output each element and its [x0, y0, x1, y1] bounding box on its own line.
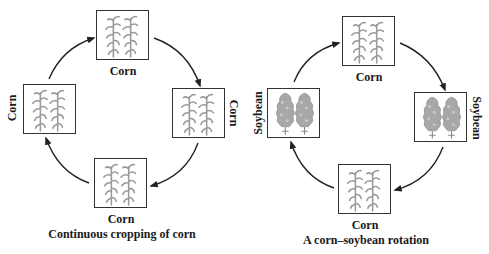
crop-label-top: Corn	[356, 71, 383, 83]
crop-label-bottom: Corn	[352, 219, 379, 231]
crop-box-left	[267, 88, 320, 138]
corn-plant-icon	[339, 165, 390, 213]
corn-plant-icon	[343, 17, 394, 65]
crop-box-right	[414, 92, 467, 142]
crop-box-top	[342, 16, 395, 66]
soybean-plant-icon	[415, 93, 466, 141]
crop-label-left: Soybean	[252, 91, 264, 134]
diagram-caption: A corn–soybean rotation	[303, 234, 429, 246]
crop-box-bottom	[338, 164, 391, 214]
soybean-plant-icon	[268, 89, 319, 137]
diagram-corn-soybean-rotation: Corn Soybean Corn Soybean A corn–soybean…	[0, 0, 489, 254]
crop-label-right: Soybean	[471, 96, 483, 139]
